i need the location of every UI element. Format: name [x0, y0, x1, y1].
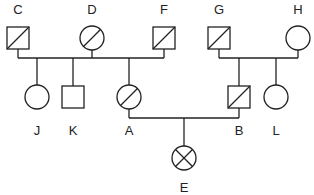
individual-j	[25, 85, 49, 109]
label-e: E	[180, 180, 189, 195]
label-l: L	[272, 123, 279, 138]
label-d: D	[87, 2, 96, 17]
label-k: K	[69, 123, 78, 138]
label-c: C	[13, 2, 22, 17]
individual-f	[153, 27, 175, 49]
label-f: F	[160, 2, 168, 17]
individual-l	[264, 85, 288, 109]
individual-g	[208, 27, 230, 49]
pedigree-diagram: CDFGHJKABLE	[0, 0, 314, 195]
individual-h	[286, 26, 310, 50]
female-circle-icon	[25, 85, 49, 109]
individual-b	[228, 86, 250, 108]
individual-e	[172, 146, 196, 170]
label-h: H	[293, 2, 302, 17]
individual-symbols	[7, 26, 310, 170]
individual-c	[7, 27, 29, 49]
female-circle-icon	[264, 85, 288, 109]
label-j: J	[34, 123, 41, 138]
individual-d	[80, 26, 104, 50]
label-b: B	[235, 123, 244, 138]
label-a: A	[125, 123, 134, 138]
individual-k	[62, 86, 84, 108]
individual-a	[117, 85, 141, 109]
label-g: G	[214, 2, 224, 17]
female-circle-icon	[286, 26, 310, 50]
relationship-lines	[18, 49, 298, 146]
male-square-icon	[62, 86, 84, 108]
